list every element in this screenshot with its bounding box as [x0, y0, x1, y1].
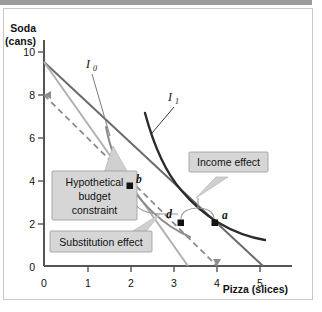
x-tick-label-0: 0 [41, 277, 47, 289]
callout-income-effect: Income effect [189, 152, 268, 198]
point-label-a: a [222, 209, 228, 221]
y-tick-label-2: 2 [29, 218, 35, 230]
x-tick-label-2: 2 [128, 277, 134, 289]
y-axis-title-line1: Soda [10, 22, 36, 34]
callout-hypothetical-budget: Hypothetical budget constraint [52, 146, 137, 220]
i1-leader-line [152, 107, 174, 133]
x-axis-title: Pizza (slices) [223, 283, 288, 295]
y-tick-label-6: 6 [29, 132, 35, 144]
y-tick-label-4: 4 [29, 175, 35, 187]
point-marker-a [212, 220, 219, 227]
point-marker-d [178, 220, 185, 227]
y-tick-label-0: 0 [29, 261, 35, 273]
bottom-white-strip [0, 303, 322, 312]
i0-leader-line [92, 74, 110, 136]
curve-label-i1: I 1 [152, 90, 179, 133]
svg-text:I: I [167, 90, 173, 104]
x-tick-label-1: 1 [85, 277, 91, 289]
point-label-d: d [166, 208, 172, 220]
hypothetical-leader [104, 146, 128, 173]
substitution-label: Substitution effect [59, 236, 142, 248]
hypothetical-label-line3: constraint [72, 204, 118, 216]
point-marker-b [127, 183, 134, 190]
x-tick-label-5: 5 [257, 277, 263, 289]
hypothetical-arrowhead-right [213, 259, 221, 266]
x-tick-label-3: 3 [171, 277, 177, 289]
income-effect-label: Income effect [197, 156, 260, 168]
chart-svg: Soda (cans) Pizza (slices) 10 8 6 4 2 0 … [0, 0, 322, 312]
svg-text:1: 1 [175, 97, 179, 106]
income-effect-leader [196, 177, 228, 198]
hypothetical-label-line2: budget [78, 190, 110, 202]
y-tick-label-8: 8 [29, 89, 35, 101]
svg-text:I: I [85, 57, 91, 71]
hypothetical-label-line1: Hypothetical [66, 176, 124, 188]
x-tick-label-4: 4 [214, 277, 220, 289]
svg-text:0: 0 [93, 64, 97, 73]
point-label-b: b [136, 173, 142, 185]
figure-root: Soda (cans) Pizza (slices) 10 8 6 4 2 0 … [0, 0, 322, 312]
y-tick-label-10: 10 [23, 46, 35, 58]
